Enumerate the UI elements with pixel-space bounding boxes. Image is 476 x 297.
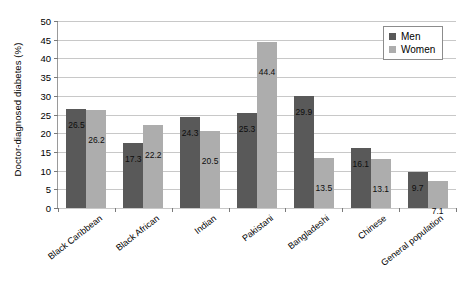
bar-value-label: 20.5 — [202, 157, 219, 166]
women-swatch-icon — [389, 46, 396, 53]
y-axis-tick-label: 45 — [40, 34, 51, 45]
bar-value-label: 9.7 — [412, 184, 424, 193]
bar-men: 25.3 — [237, 113, 257, 208]
legend-item: Men — [389, 30, 435, 43]
x-axis-category-label: General population — [379, 213, 445, 268]
legend-item-label: Women — [401, 44, 435, 55]
bar-men: 29.9 — [294, 96, 314, 208]
y-axis-tick-label: 35 — [40, 72, 51, 83]
bar-group: 26.526.2 — [58, 21, 115, 208]
x-axis-category-label: Chinese — [356, 213, 388, 241]
legend-item: Women — [389, 43, 435, 56]
bar-men: 24.3 — [180, 117, 200, 208]
bar-women: 44.4 — [257, 42, 277, 208]
bar-value-label: 44.4 — [259, 68, 276, 77]
bar-men: 26.5 — [66, 109, 86, 208]
bar-value-label: 29.9 — [296, 108, 313, 117]
bar-value-label: 17.3 — [125, 155, 142, 164]
y-axis-tick-label: 50 — [40, 16, 51, 27]
x-axis-category-label: Bangladeshi — [286, 213, 331, 251]
x-axis-category-label: Black African — [114, 213, 161, 253]
x-axis-category-label: Black Caribbean — [46, 213, 104, 262]
x-axis-tick-mark — [172, 208, 173, 212]
x-axis-category-label: Pakistani — [240, 213, 275, 243]
x-axis-tick-mark — [399, 208, 400, 212]
x-axis-tick-mark — [229, 208, 230, 212]
legend-item-label: Men — [401, 31, 420, 42]
bar-value-label: 26.5 — [68, 121, 85, 130]
bar-women: 26.2 — [86, 110, 106, 208]
x-axis-tick-mark — [456, 208, 457, 212]
bar-group: 25.344.4 — [229, 21, 286, 208]
bar-chart: Doctor-diagnosed diabetes (%) 5045403530… — [0, 0, 476, 297]
bar-value-label: 16.1 — [352, 160, 369, 169]
y-axis-tick-label: 30 — [40, 90, 51, 101]
bar-women: 22.2 — [143, 125, 163, 208]
bar-men: 16.1 — [351, 148, 371, 208]
men-swatch-icon — [389, 33, 396, 40]
y-axis-tick-label: 40 — [40, 53, 51, 64]
bar-value-label: 13.1 — [372, 185, 389, 194]
chart-legend: MenWomen — [383, 26, 443, 60]
x-axis-labels: Black CaribbeanBlack AfricanIndianPakist… — [57, 213, 455, 297]
y-axis-tick-label: 20 — [40, 128, 51, 139]
bar-women: 13.1 — [371, 159, 391, 208]
y-axis-tick-label: 15 — [40, 146, 51, 157]
x-axis-tick-mark — [58, 208, 59, 212]
y-axis-tick-label: 5 — [46, 184, 51, 195]
y-axis-tick-label: 10 — [40, 165, 51, 176]
bar-value-label: 25.3 — [239, 125, 256, 134]
bar-value-label: 22.2 — [145, 151, 162, 160]
bar-group: 29.913.5 — [285, 21, 342, 208]
bar-women: 20.5 — [200, 131, 220, 208]
bar-women: 13.5 — [314, 158, 334, 208]
bar-men: 9.7 — [408, 172, 428, 208]
x-axis-tick-mark — [342, 208, 343, 212]
bar-men: 17.3 — [123, 143, 143, 208]
y-axis-tick-label: 25 — [40, 109, 51, 120]
x-axis-tick-mark — [115, 208, 116, 212]
x-axis-category-label: Indian — [192, 213, 217, 236]
y-axis-tick-label: 0 — [46, 203, 51, 214]
x-axis-tick-mark — [285, 208, 286, 212]
bar-group: 17.322.2 — [115, 21, 172, 208]
bar-value-label: 24.3 — [182, 129, 199, 138]
y-axis-title: Doctor-diagnosed diabetes (%) — [12, 10, 23, 210]
bar-value-label: 26.2 — [88, 136, 105, 145]
bar-women: 7.1 — [428, 181, 448, 208]
bar-group: 24.320.5 — [172, 21, 229, 208]
bar-value-label: 13.5 — [316, 184, 333, 193]
